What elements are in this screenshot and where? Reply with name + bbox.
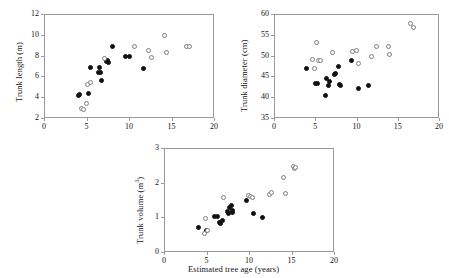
data-point-open — [205, 228, 210, 233]
x-tick-label: 0 — [154, 256, 174, 265]
y-tick-label: 45 — [244, 71, 269, 80]
data-point-open — [250, 195, 255, 200]
y-tick-mark — [271, 56, 274, 57]
data-point-open — [203, 216, 208, 221]
x-tick-mark — [172, 118, 173, 121]
data-point-filled — [77, 92, 82, 97]
y-tick-label: 2 — [14, 113, 39, 122]
data-point-open — [132, 44, 137, 49]
plot-frame-trunk-length — [44, 14, 214, 118]
y-tick-label: 1 — [134, 212, 159, 221]
data-point-filled — [304, 66, 309, 71]
x-tick-mark — [398, 118, 399, 121]
y-tick-label: 4 — [14, 92, 39, 101]
data-point-open — [369, 54, 374, 59]
y-tick-label: 50 — [244, 51, 269, 60]
y-tick-label: 6 — [14, 71, 39, 80]
y-tick-label: 2 — [134, 178, 159, 187]
x-tick-mark — [129, 118, 130, 121]
data-point-open — [354, 48, 359, 53]
x-tick-label: 10 — [347, 122, 367, 131]
x-tick-label: 5 — [305, 122, 325, 131]
data-point-open — [330, 50, 335, 55]
data-point-open — [411, 25, 416, 30]
data-point-filled — [336, 64, 341, 69]
data-point-open — [283, 191, 288, 196]
data-point-filled — [196, 225, 201, 230]
x-tick-label: 5 — [77, 122, 97, 131]
x-tick-mark — [164, 252, 165, 255]
data-point-open — [221, 195, 226, 200]
data-point-open — [318, 58, 323, 63]
x-tick-label: 0 — [264, 122, 284, 131]
x-tick-mark — [214, 118, 215, 121]
x-tick-mark — [439, 118, 440, 121]
data-point-filled — [141, 66, 146, 71]
x-tick-mark — [249, 252, 250, 255]
data-point-filled — [338, 83, 343, 88]
x-tick-label: 0 — [34, 122, 54, 131]
y-tick-mark — [41, 14, 44, 15]
y-axis-label-trunk-volume: Trunk volume (m3) — [134, 177, 145, 244]
data-point-filled — [127, 54, 132, 59]
x-tick-label: 10 — [119, 122, 139, 131]
y-tick-label: 10 — [14, 30, 39, 39]
data-point-filled — [98, 70, 103, 75]
y-tick-mark — [271, 14, 274, 15]
data-point-open — [146, 48, 151, 53]
y-tick-label: 3 — [134, 143, 159, 152]
data-point-open — [84, 101, 89, 106]
x-axis-label-estimated-tree-age: Estimated tree age (years) — [188, 264, 279, 274]
y-tick-mark — [271, 35, 274, 36]
panel-trunk-volume: Trunk volume (m3) Estimated tree age (ye… — [112, 140, 392, 278]
x-tick-label: 20 — [429, 122, 449, 131]
plot-frame-trunk-volume — [164, 148, 334, 252]
data-point-filled — [220, 218, 225, 223]
y-tick-mark — [161, 183, 164, 184]
x-tick-label: 20 — [204, 122, 224, 131]
x-tick-mark — [44, 118, 45, 121]
y-tick-label: 60 — [244, 9, 269, 18]
y-tick-label: 8 — [14, 51, 39, 60]
x-tick-label: 15 — [282, 256, 302, 265]
data-point-open — [81, 107, 86, 112]
x-tick-mark — [292, 252, 293, 255]
x-tick-mark — [207, 252, 208, 255]
x-tick-label: 20 — [324, 256, 344, 265]
y-tick-mark — [41, 35, 44, 36]
data-point-open — [314, 40, 319, 45]
data-point-filled — [215, 214, 220, 219]
y-tick-label: 12 — [14, 9, 39, 18]
data-point-open — [312, 66, 317, 71]
y-tick-mark — [271, 97, 274, 98]
data-point-open — [187, 44, 192, 49]
y-tick-mark — [271, 76, 274, 77]
x-tick-label: 5 — [197, 256, 217, 265]
data-point-filled — [356, 86, 361, 91]
x-tick-mark — [315, 118, 316, 121]
panel-trunk-length: Trunk length (m) 2468101205101520 — [0, 0, 224, 140]
y-tick-mark — [161, 217, 164, 218]
y-tick-label: 40 — [244, 92, 269, 101]
x-tick-label: 15 — [388, 122, 408, 131]
panel-trunk-diameter: Trunk diameter (cm) 35404550556005101520 — [225, 0, 449, 140]
data-point-filled — [229, 203, 234, 208]
y-tick-mark — [41, 76, 44, 77]
y-tick-label: 0 — [134, 247, 159, 256]
x-tick-label: 15 — [162, 122, 182, 131]
data-point-open — [164, 50, 169, 55]
data-point-filled — [88, 65, 93, 70]
data-point-filled — [315, 81, 320, 86]
y-tick-mark — [41, 56, 44, 57]
x-tick-mark — [334, 252, 335, 255]
data-point-filled — [86, 91, 91, 96]
y-tick-mark — [41, 97, 44, 98]
x-tick-mark — [357, 118, 358, 121]
y-tick-mark — [161, 148, 164, 149]
x-tick-mark — [274, 118, 275, 121]
y-tick-label: 55 — [244, 30, 269, 39]
x-tick-label: 10 — [239, 256, 259, 265]
data-point-filled — [97, 65, 102, 70]
y-tick-label: 35 — [244, 113, 269, 122]
x-tick-mark — [87, 118, 88, 121]
